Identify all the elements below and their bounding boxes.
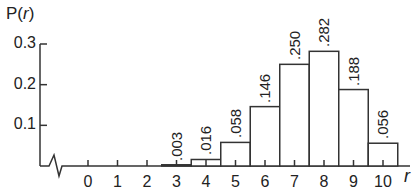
- y-tick-label: 0.1: [2, 115, 36, 133]
- x-tick-label: 2: [135, 173, 159, 191]
- x-axis-label: r: [404, 166, 410, 187]
- x-tick-label: 7: [283, 173, 307, 191]
- x-tick-label: 1: [106, 173, 130, 191]
- bar: [250, 107, 280, 166]
- x-tick-label: 10: [371, 173, 395, 191]
- y-tick-label: 0.2: [2, 75, 36, 93]
- bar-value-label: .056: [374, 110, 391, 139]
- x-tick-label: 0: [76, 173, 100, 191]
- bar-value-label: .250: [286, 31, 303, 60]
- chart-canvas: [0, 0, 420, 195]
- bar-value-label: .016: [197, 126, 214, 155]
- bar-value-label: .058: [227, 109, 244, 138]
- y-tick-label: 0.3: [2, 34, 36, 52]
- x-tick-label: 9: [342, 173, 366, 191]
- bar-value-label: .003: [168, 132, 185, 161]
- bar-value-label: .188: [345, 56, 362, 85]
- y-axis-label: P(r): [6, 4, 34, 24]
- x-tick-label: 8: [312, 173, 336, 191]
- bar-value-label: .282: [315, 18, 332, 47]
- x-tick-label: 5: [224, 173, 248, 191]
- bar: [309, 51, 339, 166]
- x-tick-label: 4: [194, 173, 218, 191]
- bar: [339, 90, 369, 166]
- bar-value-label: .146: [256, 73, 273, 102]
- bar: [280, 64, 310, 166]
- x-tick-label: 3: [165, 173, 189, 191]
- x-tick-label: 6: [253, 173, 277, 191]
